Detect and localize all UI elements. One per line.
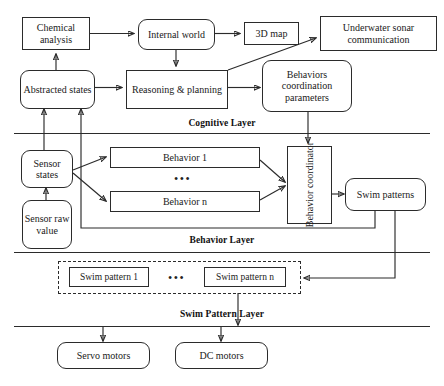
layer-label-cognitive: Cognitive Layer xyxy=(0,118,444,128)
node-abstracted-states-label: Abstracted states xyxy=(23,84,91,95)
layer-divider-behavior xyxy=(14,252,430,253)
layer-label-behavior: Behavior Layer xyxy=(0,235,444,245)
node-sensor-raw-value-label: Sensor raw value xyxy=(23,213,71,235)
node-behaviors-coordination-parameters-label: Behaviors coordination parameters xyxy=(266,69,348,103)
node-behavior-coordinator-label: Behavior coordinator xyxy=(304,142,315,227)
node-reasoning-planning-label: Reasoning & planning xyxy=(132,84,222,95)
node-swim-pattern-n[interactable]: Swim pattern n xyxy=(204,267,286,287)
edge-behavior1-to-coordinator xyxy=(260,160,285,182)
node-internal-world[interactable]: Internal world xyxy=(138,19,215,50)
edge-sensorstates-to-behavior1 xyxy=(73,157,106,170)
node-dc-motors-label: DC motors xyxy=(199,350,243,361)
node-abstracted-states[interactable]: Abstracted states xyxy=(20,70,95,109)
node-behavior-coordinator[interactable]: Behavior coordinator xyxy=(287,146,332,224)
layer-divider-cognitive xyxy=(14,133,430,134)
node-behavior-n[interactable]: Behavior n xyxy=(110,191,260,212)
architecture-diagram: Chemical analysis Internal world 3D map … xyxy=(0,0,444,386)
swim-patterns-ellipsis: ••• xyxy=(168,271,185,286)
node-swim-patterns-label: Swim patterns xyxy=(357,189,415,200)
node-behaviors-coordination-parameters[interactable]: Behaviors coordination parameters xyxy=(262,60,352,112)
edge-sensorstates-to-behaviorn xyxy=(73,173,106,201)
node-swim-pattern-1-label: Swim pattern 1 xyxy=(80,272,138,283)
node-swim-patterns[interactable]: Swim patterns xyxy=(345,178,426,211)
node-reasoning-planning[interactable]: Reasoning & planning xyxy=(126,70,228,109)
node-swim-pattern-n-label: Swim pattern n xyxy=(216,272,274,283)
node-dc-motors[interactable]: DC motors xyxy=(175,342,268,369)
node-internal-world-label: Internal world xyxy=(148,29,205,40)
node-servo-motors-label: Servo motors xyxy=(77,350,131,361)
layer-divider-swim-pattern xyxy=(14,326,430,327)
node-sensor-states[interactable]: Sensor states xyxy=(21,150,73,188)
layer-label-swim-pattern: Swim Pattern Layer xyxy=(0,309,444,319)
node-swim-pattern-1[interactable]: Swim pattern 1 xyxy=(69,267,149,287)
behaviors-ellipsis: ••• xyxy=(174,172,191,187)
node-behavior-1-label: Behavior 1 xyxy=(163,152,207,163)
node-sensor-states-label: Sensor states xyxy=(22,158,72,180)
node-underwater-sonar-communication[interactable]: Underwater sonar communication xyxy=(320,16,437,51)
node-behavior-n-label: Behavior n xyxy=(163,196,207,207)
edge-behaviorn-to-coordinator xyxy=(260,186,285,200)
node-behavior-1[interactable]: Behavior 1 xyxy=(110,147,260,168)
node-chemical-analysis[interactable]: Chemical analysis xyxy=(22,17,90,50)
node-chemical-analysis-label: Chemical analysis xyxy=(23,22,89,44)
node-3d-map[interactable]: 3D map xyxy=(244,22,299,45)
node-underwater-sonar-communication-label: Underwater sonar communication xyxy=(324,22,433,44)
node-3d-map-label: 3D map xyxy=(256,28,288,39)
node-servo-motors[interactable]: Servo motors xyxy=(57,342,150,369)
